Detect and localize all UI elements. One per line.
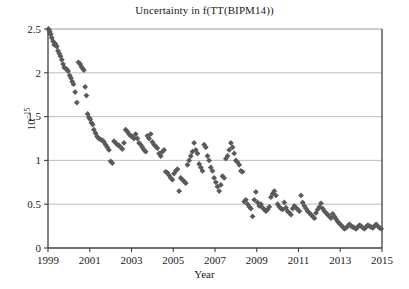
x-tick-label: 2007 — [204, 254, 227, 266]
y-axis-label: 10−15 — [23, 91, 37, 147]
x-axis-tick-labels: 199920012003200520072009201120132015 — [37, 254, 394, 266]
x-tick-label: 2009 — [246, 254, 269, 266]
data-point — [82, 84, 88, 90]
y-axis-label-mantissa: 10 — [25, 119, 37, 130]
data-point — [298, 193, 304, 199]
scatter-plot-canvas: 00.511.522.5 199920012003200520072009201… — [0, 0, 409, 289]
y-tick-label: 0 — [36, 242, 42, 254]
data-point — [72, 89, 78, 95]
y-tick-label: 2.5 — [27, 23, 41, 35]
x-tick-label: 2003 — [121, 254, 144, 266]
data-point-series — [46, 26, 385, 232]
x-tick-label: 2013 — [329, 254, 352, 266]
data-point — [176, 188, 182, 194]
data-point — [191, 140, 197, 146]
x-tick-label: 2005 — [162, 254, 185, 266]
data-point — [253, 189, 259, 195]
x-axis-label: Year — [0, 268, 409, 280]
x-tick-label: 1999 — [37, 254, 60, 266]
y-tick-label: 1 — [36, 154, 42, 166]
data-point — [121, 140, 127, 146]
y-tick-label: 2 — [36, 67, 42, 79]
y-tick-label: 0.5 — [27, 198, 41, 210]
data-point — [231, 150, 237, 156]
data-point — [74, 100, 80, 106]
data-point — [84, 93, 90, 99]
y-axis-label-exponent: −15 — [23, 107, 32, 119]
x-tick-label: 2015 — [371, 254, 394, 266]
x-tick-label: 2011 — [288, 254, 310, 266]
data-point — [250, 214, 256, 220]
x-tick-label: 2001 — [79, 254, 101, 266]
chart-figure: Uncertainty in f(TT(BIPM14)) 00.511.522.… — [0, 0, 409, 289]
